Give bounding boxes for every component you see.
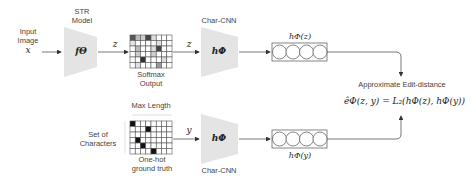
grid-cell [167, 46, 172, 52]
bottom-to-result-arrow [327, 116, 401, 139]
grid-cell [146, 143, 151, 149]
grid-cell [146, 121, 151, 127]
embedding-bottom-label: hΦ(y) [280, 151, 320, 160]
grid-cell [141, 132, 146, 138]
grid-cell [130, 143, 135, 149]
grid-cell [162, 35, 167, 41]
grid-cell [167, 138, 172, 144]
grid-cell [130, 121, 135, 127]
grid-cell [167, 57, 172, 63]
grid-cell [156, 63, 161, 69]
grid-cell [151, 52, 156, 58]
grid-cell [162, 46, 167, 52]
grid-cell [156, 127, 161, 133]
grid-cell [162, 57, 167, 63]
grid-cell [162, 52, 167, 58]
set-of-chars-line1: Set of [76, 130, 120, 139]
str-title-line1: STR [64, 7, 100, 16]
grid-cell [151, 41, 156, 47]
grid-cell [146, 127, 151, 133]
embedding-top-vector [272, 43, 327, 61]
grid-cell [141, 41, 146, 47]
grid-cell [146, 52, 151, 58]
grid-cell [167, 127, 172, 133]
softmax-label-line1: Softmax [128, 70, 174, 79]
grid-cell [130, 132, 135, 138]
onehot-label: One-hot ground truth [124, 155, 180, 173]
char-cnn-bottom-func: hΦ [206, 134, 232, 143]
grid-cell [167, 143, 172, 149]
grid-cell [141, 46, 146, 52]
grid-cell [151, 149, 156, 155]
grid-cell [146, 41, 151, 47]
grid-cell [135, 35, 140, 41]
grid-cell [151, 35, 156, 41]
grid-cell [151, 127, 156, 133]
grid-cell [130, 127, 135, 133]
grid-cell [151, 121, 156, 127]
grid-cell [167, 52, 172, 58]
grid-cell [156, 41, 161, 47]
grid-cell [162, 143, 167, 149]
grid-cell [167, 63, 172, 69]
grid-cell [151, 132, 156, 138]
input-label-line2: Image [14, 36, 42, 45]
grid-cell [162, 149, 167, 155]
grid-cell [141, 138, 146, 144]
edit-distance-formula: êΦ(z, y) = L₂(hΦ(z), hΦ(y)) [344, 96, 465, 106]
str-model-title: STR Model [64, 7, 100, 25]
grid-cell [135, 63, 140, 69]
grid-cell [135, 41, 140, 47]
grid-cell [130, 57, 135, 63]
top-to-result-arrow [327, 52, 401, 76]
grid-cell [146, 46, 151, 52]
set-of-chars-line2: Characters [76, 139, 120, 148]
grid-cell [141, 149, 146, 155]
grid-cell [146, 35, 151, 41]
grid-cell [167, 132, 172, 138]
grid-cell [135, 138, 140, 144]
y-label: y [184, 126, 194, 135]
grid-cell [162, 41, 167, 47]
grid-cell [135, 132, 140, 138]
grid-cell [156, 57, 161, 63]
grid-cell [130, 149, 135, 155]
grid-cell [146, 132, 151, 138]
grid-cell [151, 138, 156, 144]
grid-cell [156, 52, 161, 58]
softmax-grid [130, 35, 172, 68]
set-of-characters-label: Set of Characters [76, 130, 120, 148]
embedding-top-label: hΦ(z) [280, 32, 320, 41]
grid-cell [146, 63, 151, 69]
grid-cell [135, 121, 140, 127]
grid-cell [146, 149, 151, 155]
grid-cell [146, 57, 151, 63]
grid-cell [162, 132, 167, 138]
grid-cell [135, 127, 140, 133]
grid-cell [130, 52, 135, 58]
grid-cell [156, 143, 161, 149]
input-image-label: Input Image [14, 27, 42, 45]
onehot-grid [130, 121, 172, 154]
input-var-x: x [22, 46, 34, 55]
grid-cell [141, 35, 146, 41]
str-func-label: fΘ [70, 47, 92, 56]
grid-cell [156, 46, 161, 52]
diagram-canvas [0, 0, 475, 179]
grid-cell [135, 52, 140, 58]
grid-cell [162, 127, 167, 133]
char-cnn-top-func: hΦ [206, 47, 232, 56]
grid-cell [167, 35, 172, 41]
max-length-label: Max Length [128, 101, 174, 110]
grid-cell [141, 57, 146, 63]
embedding-bottom-vector [272, 130, 327, 148]
softmax-label: Softmax Output [128, 70, 174, 88]
grid-cell [130, 46, 135, 52]
grid-cell [167, 41, 172, 47]
grid-cell [162, 121, 167, 127]
grid-cell [167, 149, 172, 155]
grid-cell [141, 127, 146, 133]
grid-cell [156, 132, 161, 138]
grid-cell [156, 35, 161, 41]
grid-cell [156, 149, 161, 155]
